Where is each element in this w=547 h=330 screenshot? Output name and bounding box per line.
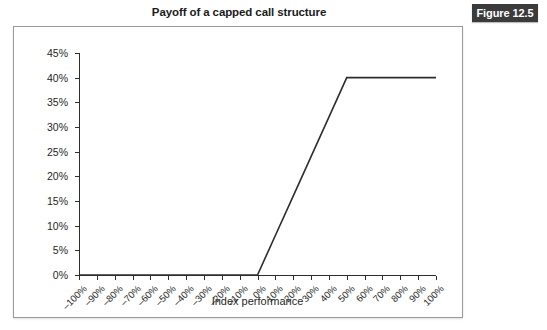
x-axis-tick bbox=[240, 276, 241, 280]
x-axis-tick bbox=[418, 276, 419, 280]
x-axis-tick bbox=[365, 276, 366, 280]
x-axis-tick bbox=[436, 276, 437, 280]
y-axis-tick-label: 35% bbox=[47, 96, 68, 108]
x-axis-tick bbox=[258, 276, 259, 280]
x-axis-tick bbox=[382, 276, 383, 280]
x-axis-tick bbox=[168, 276, 169, 280]
x-axis-tick bbox=[115, 276, 116, 280]
y-axis-tick-label: 0% bbox=[53, 269, 68, 281]
x-axis-tick bbox=[222, 276, 223, 280]
plot-area: 0%5%10%15%20%25%30%35%40%45% –100%–90%–8… bbox=[79, 53, 436, 276]
chart-panel: Procuct payoff Index performance 0%5%10%… bbox=[13, 26, 463, 318]
x-axis-tick bbox=[293, 276, 294, 280]
y-axis-tick-label: 15% bbox=[47, 195, 68, 207]
x-axis-tick bbox=[133, 276, 134, 280]
x-axis-tick bbox=[186, 276, 187, 280]
y-axis-tick-label: 45% bbox=[47, 47, 68, 59]
x-axis-tick bbox=[347, 276, 348, 280]
x-axis-tick bbox=[311, 276, 312, 280]
x-axis-tick bbox=[329, 276, 330, 280]
chart-title: Payoff of a capped call structure bbox=[13, 5, 465, 19]
y-axis-tick-label: 5% bbox=[53, 244, 68, 256]
y-axis-tick-label: 40% bbox=[47, 72, 68, 84]
figure-number-badge: Figure 12.5 bbox=[472, 4, 538, 22]
figure-container: Payoff of a capped call structure Figure… bbox=[0, 0, 547, 330]
y-axis-tick-label: 25% bbox=[47, 146, 68, 158]
series-line-capped-call bbox=[79, 53, 436, 276]
x-axis-tick bbox=[150, 276, 151, 280]
y-axis-tick-label: 20% bbox=[47, 170, 68, 182]
x-axis-tick bbox=[400, 276, 401, 280]
x-axis-tick bbox=[97, 276, 98, 280]
x-axis-tick bbox=[204, 276, 205, 280]
y-axis-tick-label: 10% bbox=[47, 220, 68, 232]
x-axis-tick bbox=[275, 276, 276, 280]
y-axis-tick-label: 30% bbox=[47, 121, 68, 133]
x-axis-tick bbox=[79, 276, 80, 280]
